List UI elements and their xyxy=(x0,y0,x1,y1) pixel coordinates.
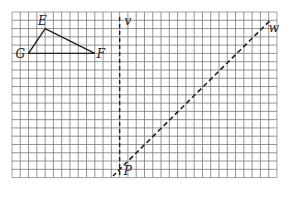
geometry-figure: E F G v w P xyxy=(0,0,298,206)
point-label-p: P xyxy=(123,164,133,178)
vertex-label-g: G xyxy=(16,47,26,61)
line-label-v: v xyxy=(125,14,132,28)
vertex-label-e: E xyxy=(37,14,47,28)
figure-shapes xyxy=(29,17,270,178)
figure-labels: E F G v w P xyxy=(16,14,280,179)
line-label-w: w xyxy=(269,21,280,35)
vertex-label-f: F xyxy=(96,47,106,61)
coordinate-grid xyxy=(12,12,277,178)
